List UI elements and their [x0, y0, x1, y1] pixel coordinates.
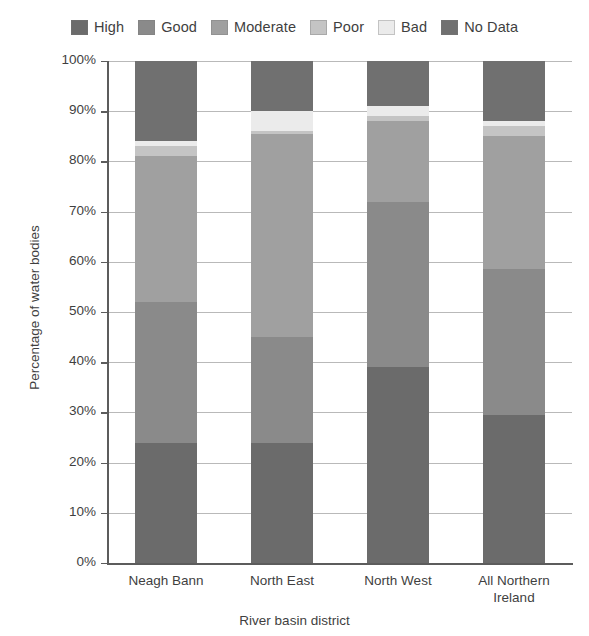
legend-item-label: High [94, 19, 124, 35]
legend-item-label: Moderate [234, 19, 296, 35]
chart-legend: HighGoodModeratePoorBadNo Data [0, 14, 589, 40]
legend-item-good[interactable]: Good [138, 19, 197, 35]
bar-segment-moderate[interactable] [483, 136, 545, 269]
bar-segment-good[interactable] [251, 337, 313, 442]
y-axis-tick [101, 362, 108, 363]
x-axis-tick-label: North East [217, 572, 347, 589]
x-axis-line [107, 563, 573, 565]
y-axis-tick-label: 40% [34, 353, 96, 368]
bar-segment-poor[interactable] [483, 126, 545, 136]
y-axis-tick [101, 312, 108, 313]
bar-neagh-bann[interactable] [135, 61, 197, 563]
bar-segment-bad[interactable] [135, 141, 197, 146]
legend-item-bad[interactable]: Bad [378, 19, 427, 35]
bar-segment-good[interactable] [367, 202, 429, 368]
bar-segment-poor[interactable] [367, 116, 429, 121]
y-axis-tick-label: 70% [34, 203, 96, 218]
bar-segment-bad[interactable] [251, 111, 313, 131]
legend-item-high[interactable]: High [71, 19, 124, 35]
bar-segment-poor[interactable] [135, 146, 197, 156]
y-axis-tick [101, 262, 108, 263]
bar-segment-no-data[interactable] [135, 61, 197, 141]
legend-swatch-icon [71, 20, 88, 35]
x-axis-tick-label: Neagh Bann [101, 572, 231, 589]
bar-segment-no-data[interactable] [367, 61, 429, 106]
stacked-bar-chart: HighGoodModeratePoorBadNo Data Percentag… [0, 0, 589, 636]
y-axis-tick-label: 20% [34, 454, 96, 469]
y-axis-tick [101, 563, 108, 564]
legend-item-label: Bad [401, 19, 427, 35]
legend-swatch-icon [310, 20, 327, 35]
legend-item-label: No Data [464, 19, 518, 35]
y-axis-tick-label: 60% [34, 253, 96, 268]
y-axis-tick [101, 212, 108, 213]
legend-item-moderate[interactable]: Moderate [211, 19, 296, 35]
x-axis-tick-label: North West [333, 572, 463, 589]
legend-item-label: Good [161, 19, 197, 35]
legend-swatch-icon [211, 20, 228, 35]
legend-swatch-icon [378, 20, 395, 35]
bar-north-west[interactable] [367, 61, 429, 563]
legend-item-label: Poor [333, 19, 364, 35]
y-axis-tick-label: 80% [34, 152, 96, 167]
y-axis-tick-label: 50% [34, 303, 96, 318]
legend-swatch-icon [441, 20, 458, 35]
y-axis-tick-label: 10% [34, 504, 96, 519]
y-axis-tick [101, 161, 108, 162]
bar-all-northern-ireland[interactable] [483, 61, 545, 563]
y-axis-tick [101, 111, 108, 112]
y-axis-tick [101, 513, 108, 514]
y-axis-tick [101, 61, 108, 62]
x-axis-title: River basin district [0, 613, 589, 628]
bar-segment-poor[interactable] [251, 131, 313, 134]
bar-segment-moderate[interactable] [367, 121, 429, 201]
bar-segment-no-data[interactable] [251, 61, 313, 111]
y-axis-tick [101, 463, 108, 464]
bar-segment-high[interactable] [135, 443, 197, 563]
bar-north-east[interactable] [251, 61, 313, 563]
bar-segment-bad[interactable] [483, 121, 545, 126]
bar-segment-good[interactable] [135, 302, 197, 443]
y-axis-tick-label: 90% [34, 102, 96, 117]
bar-segment-high[interactable] [483, 415, 545, 563]
bar-segment-bad[interactable] [367, 106, 429, 116]
legend-swatch-icon [138, 20, 155, 35]
legend-item-poor[interactable]: Poor [310, 19, 364, 35]
y-axis-tick-label: 30% [34, 403, 96, 418]
x-axis-tick-label: All Northern Ireland [464, 572, 564, 606]
bar-segment-high[interactable] [251, 443, 313, 563]
y-axis-tick-label: 0% [34, 554, 96, 569]
legend-item-no-data[interactable]: No Data [441, 19, 518, 35]
y-axis-tick-label: 100% [34, 52, 96, 67]
bar-segment-good[interactable] [483, 269, 545, 415]
bar-segment-moderate[interactable] [135, 156, 197, 302]
bar-segment-moderate[interactable] [251, 134, 313, 337]
y-axis-tick [101, 412, 108, 413]
bar-segment-high[interactable] [367, 367, 429, 563]
bar-segment-no-data[interactable] [483, 61, 545, 121]
